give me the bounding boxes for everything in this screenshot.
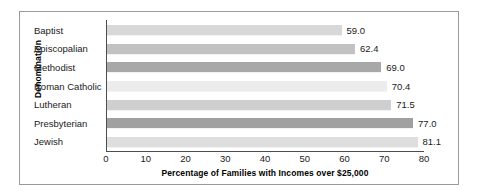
- bar-value-label: 81.1: [423, 136, 442, 147]
- bar: [107, 24, 342, 36]
- bar-row: 59.0: [107, 21, 441, 40]
- x-axis-tick-labels: 01020304050607080: [106, 153, 424, 165]
- bar-series: 59.0 62.4 69.0 70.4 71.5 77.0: [107, 21, 441, 151]
- chart-frame: Denomination Baptist Episcopalian Method…: [19, 11, 459, 185]
- bar-row: 81.1: [107, 132, 441, 151]
- x-tick-label: 60: [339, 153, 350, 164]
- x-tick-label: 10: [140, 153, 151, 164]
- bar-row: 70.4: [107, 77, 441, 96]
- bar-value-label: 62.4: [360, 43, 379, 54]
- bar-row: 77.0: [107, 114, 441, 133]
- x-tick-label: 70: [379, 153, 390, 164]
- bar: [107, 43, 355, 55]
- bar: [107, 80, 387, 92]
- bar: [107, 136, 418, 148]
- x-tick-label: 0: [103, 153, 108, 164]
- x-tick-label: 80: [419, 153, 430, 164]
- bar: [107, 117, 413, 129]
- bar-row: 62.4: [107, 40, 441, 59]
- bar: [107, 99, 391, 111]
- bar-value-label: 69.0: [386, 62, 405, 73]
- x-tick-label: 30: [220, 153, 231, 164]
- bar-value-label: 59.0: [347, 25, 366, 36]
- x-tick-label: 50: [299, 153, 310, 164]
- bar: [107, 61, 381, 73]
- bar-value-label: 71.5: [396, 99, 415, 110]
- x-tick-label: 20: [180, 153, 191, 164]
- bar-row: 71.5: [107, 95, 441, 114]
- bar-value-label: 77.0: [418, 118, 437, 129]
- bar-value-label: 70.4: [392, 81, 411, 92]
- x-tick-label: 40: [260, 153, 271, 164]
- bar-row: 69.0: [107, 58, 441, 77]
- x-axis-title: Percentage of Families with Incomes over…: [106, 168, 424, 178]
- plot-area: 59.0 62.4 69.0 70.4 71.5 77.0: [106, 20, 441, 152]
- x-axis-line: [106, 151, 424, 152]
